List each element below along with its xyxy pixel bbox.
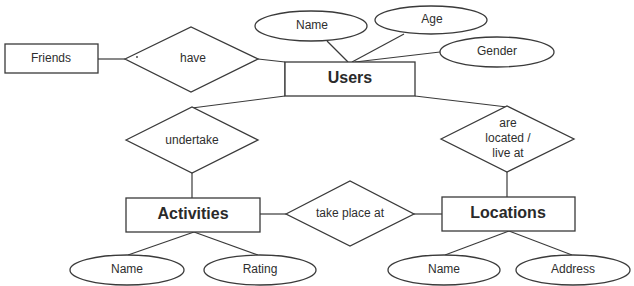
relationship-located-line1: are [499, 116, 517, 130]
relationship-located-line3: live at [492, 146, 524, 160]
attribute-activities-rating[interactable]: Rating [204, 255, 316, 285]
relationship-located-line2: located / [485, 131, 531, 145]
entity-users-label: Users [328, 69, 373, 86]
edge-users-age [352, 34, 404, 62]
edge-users-name [327, 41, 348, 62]
er-diagram: Friends have Name Age Gender Users under… [0, 0, 634, 286]
attribute-users-gender-label: Gender [477, 44, 517, 58]
entity-friends[interactable]: Friends [5, 44, 98, 73]
entity-locations-label: Locations [470, 204, 546, 221]
attribute-locations-name[interactable]: Name [388, 255, 500, 285]
relationship-undertake[interactable]: undertake [126, 107, 258, 173]
dot-mark [136, 56, 138, 58]
edge-locations-address [509, 231, 572, 255]
edge-locations-name [445, 231, 509, 255]
relationship-have[interactable]: have [125, 27, 258, 92]
attribute-activities-name-label: Name [111, 262, 143, 276]
attribute-locations-name-label: Name [428, 262, 460, 276]
attribute-users-name[interactable]: Name [255, 11, 367, 41]
relationship-take-place-at[interactable]: take place at [286, 181, 414, 246]
edge-users-located [415, 96, 507, 107]
entity-activities[interactable]: Activities [126, 198, 260, 232]
attribute-users-age-label: Age [421, 12, 443, 26]
entity-activities-label: Activities [157, 205, 228, 222]
entity-friends-label: Friends [31, 51, 71, 65]
edge-users-undertake [192, 96, 285, 108]
relationship-take-place-at-label: take place at [316, 206, 385, 220]
relationship-undertake-label: undertake [165, 133, 219, 147]
entity-users[interactable]: Users [285, 62, 415, 96]
attribute-locations-address-label: Address [551, 262, 595, 276]
attribute-users-name-label: Name [296, 18, 328, 32]
attribute-locations-address[interactable]: Address [516, 255, 630, 285]
relationship-have-label: have [180, 51, 206, 65]
attribute-users-gender[interactable]: Gender [440, 37, 554, 67]
attribute-activities-rating-label: Rating [243, 262, 278, 276]
entity-locations[interactable]: Locations [442, 197, 575, 231]
edge-activities-rating [194, 232, 258, 255]
relationship-located[interactable]: are located / live at [441, 106, 574, 172]
attribute-users-age[interactable]: Age [375, 6, 487, 34]
edge-activities-name [128, 232, 194, 255]
edge-have-users [258, 59, 285, 62]
attribute-activities-name[interactable]: Name [70, 255, 184, 285]
